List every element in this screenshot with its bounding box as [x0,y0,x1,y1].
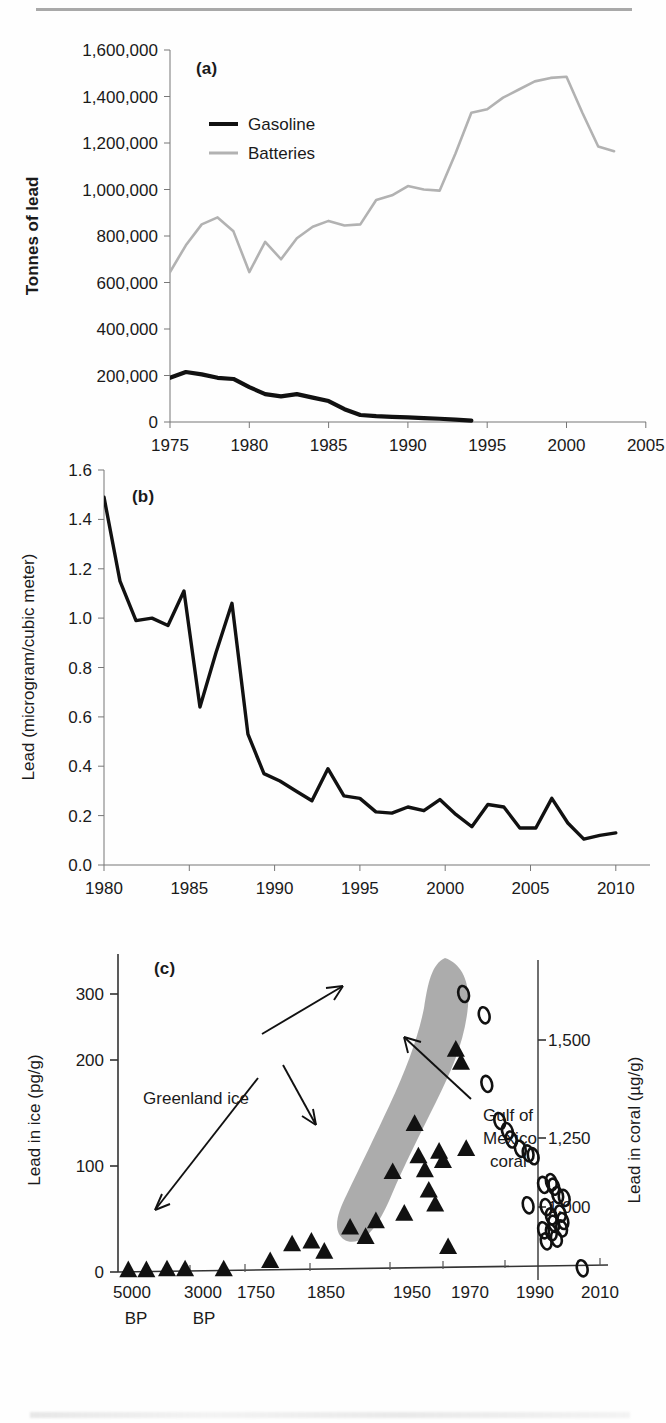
panel-c-xtick-1750: 1750 [237,1283,275,1302]
panel-c-xtick-3000bp: 3000 [184,1283,222,1302]
ice-data-point [137,1261,155,1278]
caption-ghost-text [30,1412,630,1418]
coral-data-point [575,1259,589,1277]
panel-b-y-tick-labels: 0.0 0.2 0.4 0.6 0.8 1.0 1.2 1.4 1.6 [68,461,92,875]
figure-page: 0 200,000 400,000 600,000 800,000 1,000,… [0,0,666,1423]
panel-a-x-tick-labels: 1975 1980 1985 1990 1995 2000 2005 [151,436,665,455]
panel-a-svg: 0 200,000 400,000 600,000 800,000 1,000,… [0,36,666,456]
panel-b-y-axis-title: Lead (microgram/cubic meter) [19,554,38,781]
panel-c-xtick-2010: 2010 [581,1283,619,1302]
ice-data-point [420,1181,438,1198]
panel-b-ytick-4: 0.8 [68,659,92,678]
panel-a-ytick-8: 1,600,000 [82,41,158,60]
ice-data-point [395,1204,413,1221]
panel-b-y-ticks [98,470,104,865]
panel-b-ytick-7: 1.4 [68,510,92,529]
panel-c-svg: 0 100 200 300 1,500 1,250 1,000 [0,920,666,1423]
panel-b-series-lead-air [104,497,616,839]
panel-c-right-ytick-1250: 1,250 [548,1129,591,1148]
panel-b-lead-air: 0.0 0.2 0.4 0.6 0.8 1.0 1.2 1.4 1.6 1980… [0,460,666,900]
panel-b-ytick-6: 1.2 [68,560,92,579]
panel-c-xtick-sub-3000: BP [193,1309,216,1328]
panel-c-ytick-1: 100 [76,1157,104,1176]
panel-a-xtick-4: 1995 [468,436,506,455]
legend-label-batteries: Batteries [248,144,315,163]
panel-b-svg: 0.0 0.2 0.4 0.6 0.8 1.0 1.2 1.4 1.6 1980… [0,460,666,900]
panel-b-ytick-0: 0.0 [68,856,92,875]
ice-data-point [176,1260,194,1277]
panel-c-ytick-3: 300 [76,985,104,1004]
panel-a-xtick-2: 1985 [310,436,348,455]
panel-a-ytick-0: 0 [149,413,158,432]
panel-a-ytick-5: 1,000,000 [82,181,158,200]
panel-a-xtick-1: 1980 [230,436,268,455]
panel-c-right-y-axis-title: Lead in coral (µg/g) [625,1057,644,1204]
panel-c-xtick-1990: 1990 [516,1283,554,1302]
panel-b-ytick-1: 0.2 [68,807,92,826]
ice-data-point [215,1260,233,1277]
ice-data-point [158,1260,176,1277]
panel-a-series-gasoline [170,372,471,421]
ice-data-point [302,1232,320,1249]
panel-c-left-y-ticks [110,994,118,1272]
panel-a-ytick-3: 600,000 [97,274,158,293]
panel-b-x-ticks [104,865,616,871]
panel-b-xtick-2: 1990 [256,879,294,898]
panel-b-xtick-3: 1995 [341,879,379,898]
panel-b-ytick-8: 1.6 [68,461,92,480]
panel-a-xtick-0: 1975 [151,436,189,455]
panel-b-xtick-6: 2010 [597,879,635,898]
multi-panel-figure: 0 200,000 400,000 600,000 800,000 1,000,… [0,0,666,1423]
annotation-coral: coral [490,1152,527,1171]
ice-data-point [439,1238,457,1255]
panel-a-ytick-2: 400,000 [97,320,158,339]
legend-label-gasoline: Gasoline [248,115,315,134]
panel-c-xtick-5000bp: 5000 [113,1283,151,1302]
panel-b-label: (b) [132,487,154,506]
annotation-greenland-ice: Greenland ice [143,1089,249,1108]
panel-a-xtick-5: 2000 [548,436,586,455]
panel-b-ytick-5: 1.0 [68,609,92,628]
panel-b-x-tick-labels: 1980 1985 1990 1995 2000 2005 2010 [85,879,635,898]
ice-data-point [457,1139,475,1156]
panel-a-x-ticks [170,422,646,428]
panel-a-ytick-7: 1,400,000 [82,88,158,107]
panel-a-series-batteries [170,77,614,272]
panel-c-ytick-2: 200 [76,1051,104,1070]
coral-band-shape [337,958,468,1242]
coral-data-point [477,1006,491,1024]
panel-b-ytick-3: 0.6 [68,708,92,727]
panel-b-xtick-0: 1980 [85,879,123,898]
ice-data-point [261,1251,279,1268]
panel-c-xtick-1950: 1950 [393,1283,431,1302]
panel-a-y-axis-title: Tonnes of lead [23,177,42,296]
coral-data-point [480,1075,494,1093]
panel-c-x-tick-labels: 5000 3000 1750 1850 1950 1970 1990 2010 [113,1283,619,1302]
coral-data-point [521,1196,535,1214]
panel-a-xtick-6: 2005 [627,436,665,455]
panel-c-label: (c) [154,959,175,978]
panel-c-xtick-sub-5000: BP [125,1309,148,1328]
panel-b-xtick-4: 2000 [426,879,464,898]
panel-c-xtick-1850: 1850 [307,1283,345,1302]
panel-a-xtick-3: 1990 [389,436,427,455]
panel-c-x-axis [118,1265,608,1272]
panel-c-ytick-0: 0 [95,1263,104,1282]
panel-a-lead-consumption: 0 200,000 400,000 600,000 800,000 1,000,… [0,36,666,456]
panel-a-y-tick-labels: 0 200,000 400,000 600,000 800,000 1,000,… [82,41,158,432]
panel-a-label: (a) [196,59,217,78]
panel-b-xtick-5: 2005 [512,879,550,898]
panel-b-ytick-2: 0.4 [68,757,92,776]
panel-a-ytick-4: 800,000 [97,227,158,246]
panel-a-ytick-1: 200,000 [97,367,158,386]
panel-c-left-y-axis-title: Lead in ice (pg/g) [25,1054,44,1185]
panel-a-y-ticks [164,50,170,422]
panel-c-ice-coral: 0 100 200 300 1,500 1,250 1,000 [0,920,666,1423]
panel-c-xtick-1970: 1970 [451,1283,489,1302]
panel-b-xtick-1: 1985 [170,879,208,898]
ice-data-point [283,1235,301,1252]
ice-data-point [119,1261,137,1278]
panel-c-right-ytick-1500: 1,500 [548,1031,591,1050]
panel-c-left-y-tick-labels: 0 100 200 300 [76,985,104,1282]
panel-a-legend: Gasoline Batteries [209,115,315,163]
